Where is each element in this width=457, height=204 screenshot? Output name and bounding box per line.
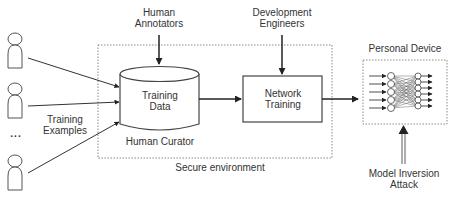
personal-device-label: Personal Device <box>365 43 445 54</box>
person-icon <box>8 83 22 118</box>
secure-environment-label: Secure environment <box>155 162 285 173</box>
label-line: Training <box>42 114 88 125</box>
person-icon <box>8 33 22 68</box>
arrow-person1-to-data <box>28 58 119 87</box>
arrow-attack-to-device <box>399 125 409 164</box>
training-data-label: Training Data <box>130 90 190 112</box>
label-line: Data <box>130 101 190 112</box>
label-line: Training <box>130 90 190 101</box>
training-examples-label: Training Examples <box>42 114 88 136</box>
model-inversion-attack-label: Model Inversion Attack <box>362 168 446 190</box>
human-annotators-label: Human Annotators <box>131 7 187 29</box>
label-line: Human <box>131 7 187 18</box>
label-line: Model Inversion <box>362 168 446 179</box>
ellipsis-label: ... <box>6 128 26 139</box>
development-engineers-label: Development Engineers <box>248 7 316 29</box>
label-line: Annotators <box>131 18 187 29</box>
label-line: Training <box>250 99 316 110</box>
network-training-label: Network Training <box>250 88 316 110</box>
label-line: Network <box>250 88 316 99</box>
person-icon <box>8 155 22 190</box>
label-line: Engineers <box>248 18 316 29</box>
arrow-person2-to-data <box>28 102 119 106</box>
label-line: Development <box>248 7 316 18</box>
human-curator-label: Human Curator <box>120 136 200 147</box>
neural-network-icon <box>369 73 432 112</box>
label-line: Attack <box>362 179 446 190</box>
label-line: Examples <box>42 125 88 136</box>
